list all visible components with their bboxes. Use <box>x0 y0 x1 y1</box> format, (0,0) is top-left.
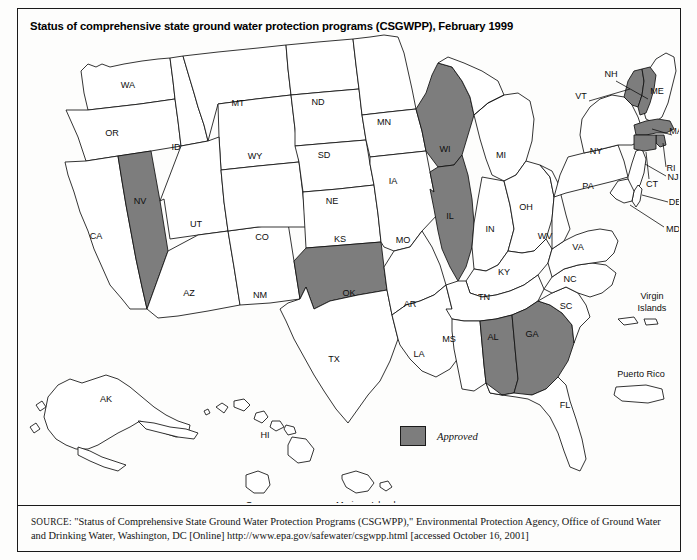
map-label-IN: IN <box>485 224 494 234</box>
map-label-LA: LA <box>413 349 425 359</box>
figure-page: Status of comprehensive state ground wat… <box>0 0 697 560</box>
legend-label-approved: Approved <box>437 431 478 442</box>
map-label-TN: TN <box>478 292 490 302</box>
map-label-MS: MS <box>442 334 456 344</box>
map-label-MT: MT <box>231 98 245 108</box>
map-label-CO: CO <box>255 232 269 242</box>
map-label-OR: OR <box>105 128 119 138</box>
state-RI[interactable] <box>656 135 666 147</box>
source-note: SOURCE: "Status of Comprehensive State G… <box>31 515 661 543</box>
state-NE[interactable] <box>295 140 374 192</box>
map-label-NE: NE <box>326 196 339 206</box>
map-label-WY: WY <box>248 151 263 161</box>
map-label-WA: WA <box>121 80 136 90</box>
map-label-RI: RI <box>666 163 675 173</box>
map-label-MI: MI <box>496 150 506 160</box>
map-label-WV: WV <box>538 231 554 241</box>
map-label-ND: ND <box>311 97 325 107</box>
source-divider <box>18 505 680 506</box>
map-label-GA: GA <box>525 329 539 339</box>
map-label-NY: NY <box>590 146 603 156</box>
state-CO[interactable] <box>221 162 306 231</box>
map-label-VI-line1: Virgin <box>640 291 663 301</box>
map-label-UT: UT <box>190 219 203 229</box>
territory-PR[interactable] <box>614 385 664 403</box>
state-ND[interactable] <box>286 39 359 95</box>
map-label-TX: TX <box>328 354 340 364</box>
map-label-NV: NV <box>134 196 148 206</box>
state-MN[interactable] <box>353 35 416 115</box>
state-OR[interactable] <box>66 99 181 161</box>
map-label-MD: MD <box>666 224 679 234</box>
source-text: "Status of Comprehensive State Ground Wa… <box>31 516 661 541</box>
map-label-AK: AK <box>100 394 112 404</box>
map-label-KS: KS <box>334 234 346 244</box>
map-label-GU: Guam <box>246 500 271 503</box>
map-label-VA: VA <box>572 242 584 252</box>
map-label-SD: SD <box>318 150 331 160</box>
map-label-CT: CT <box>646 179 659 189</box>
map-label-KY: KY <box>498 267 510 277</box>
state-MA[interactable] <box>634 119 674 135</box>
state-SD[interactable] <box>291 89 366 146</box>
map-label-HI: HI <box>260 430 269 440</box>
map-label-CA: CA <box>90 231 104 241</box>
map-legend: Approved <box>400 426 478 446</box>
map-label-OK: OK <box>342 288 355 298</box>
state-CT[interactable] <box>634 135 656 151</box>
map-label-FL: FL <box>560 400 571 410</box>
map-label-OH: OH <box>519 202 533 212</box>
state-AK[interactable] <box>30 375 198 471</box>
map-label-DE: DE <box>669 197 679 207</box>
map-label-AR: AR <box>404 299 417 309</box>
map-label-ME: ME <box>650 86 664 96</box>
map-label-VI-line2: Islands <box>638 303 667 313</box>
map-label-WI: WI <box>439 144 450 154</box>
map-label-PR: Puerto Rico <box>617 369 665 379</box>
map-label-AZ: AZ <box>183 288 195 298</box>
leader-line-ct <box>646 152 649 179</box>
map-label-NC: NC <box>563 274 577 284</box>
map-label-SC: SC <box>560 301 573 311</box>
map-label-ID: ID <box>171 142 181 152</box>
map-label-PA: PA <box>582 181 594 191</box>
territory-GU[interactable] <box>246 471 270 493</box>
leader-line-de <box>642 195 668 202</box>
leader-line-md <box>630 205 664 227</box>
map-label-MO: MO <box>396 235 411 245</box>
source-label: SOURCE: <box>31 517 72 527</box>
map-label-NM: NM <box>253 290 267 300</box>
map-label-NJ: NJ <box>667 172 678 182</box>
map-label-NH: NH <box>604 69 617 79</box>
map-label-IA: IA <box>389 176 399 186</box>
territory-VI[interactable] <box>618 317 658 325</box>
territory-MP[interactable] <box>342 471 392 493</box>
map-label-MA: MA <box>669 126 679 136</box>
state-IA[interactable] <box>362 109 426 157</box>
map-label-VT: VT <box>575 91 587 101</box>
map-label-AL: AL <box>487 332 498 342</box>
choropleth-map: WA OR CA NV ID MT WY UT AZ NM CO ND SD N… <box>18 9 679 503</box>
legend-swatch-approved <box>400 426 426 446</box>
map-label-MN: MN <box>377 117 391 127</box>
state-HI[interactable] <box>204 399 314 463</box>
map-label-MP: Mariana Islands <box>336 500 401 503</box>
map-label-IL: IL <box>446 211 454 221</box>
